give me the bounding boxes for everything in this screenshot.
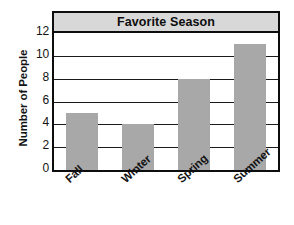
y-axis-tick-labels: 12 10 8 6 4 2 0 bbox=[22, 11, 49, 172]
y-tick-label: 6 bbox=[22, 93, 49, 107]
y-tick-label: 8 bbox=[22, 70, 49, 84]
x-axis-tick-labels: FallWinterSpringSummer bbox=[52, 172, 280, 225]
bar bbox=[66, 113, 98, 170]
y-tick-label: 10 bbox=[22, 47, 49, 61]
bars-layer bbox=[54, 33, 278, 170]
plot-area: Favorite Season bbox=[52, 11, 280, 172]
y-tick-label: 0 bbox=[22, 161, 49, 175]
chart-title: Favorite Season bbox=[117, 15, 215, 29]
chart-title-banner: Favorite Season bbox=[54, 13, 278, 33]
plot-canvas bbox=[54, 33, 278, 170]
y-tick-label: 12 bbox=[22, 24, 49, 38]
y-tick-label: 2 bbox=[22, 138, 49, 152]
y-tick-label: 4 bbox=[22, 115, 49, 129]
bar-chart: Number of People 12 10 8 6 4 2 0 Favorit… bbox=[0, 0, 294, 225]
